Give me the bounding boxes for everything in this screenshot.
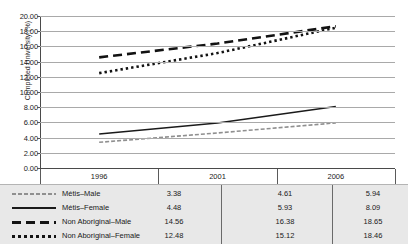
x-band-separator (40, 169, 41, 184)
gridline (40, 153, 395, 154)
y-tick-label: 20.00 (20, 12, 38, 21)
table-cell-value: 5.94 (350, 189, 396, 198)
table-cell-value: 3.38 (151, 189, 197, 198)
x-category-label: 2006 (277, 172, 395, 181)
table-row: Métis–Male3.384.615.94 (0, 187, 408, 201)
table-cell-value: 4.48 (151, 203, 197, 212)
series-line (99, 107, 336, 134)
legend-series-label: Métis–Male (62, 189, 100, 198)
y-tick-mark (37, 31, 40, 32)
series-line (99, 123, 336, 142)
gridline (40, 77, 395, 78)
y-tick-label: 18.00 (20, 27, 38, 36)
y-tick-label: 10.00 (20, 88, 38, 97)
x-category-label: 1996 (40, 172, 158, 181)
legend-line-swatch (12, 207, 56, 209)
y-tick-label: 14.00 (20, 57, 38, 66)
plot-area (40, 16, 395, 168)
gridline (40, 107, 395, 108)
y-tick-label: 0.00 (24, 164, 38, 173)
table-cell-value: 12.48 (151, 231, 197, 240)
y-tick-label: 4.00 (24, 133, 38, 142)
x-band-separator (395, 169, 396, 184)
y-tick-mark (37, 92, 40, 93)
legend-line-swatch (12, 221, 56, 224)
y-tick-mark (37, 138, 40, 139)
legend-series-label: Métis–Female (62, 203, 109, 212)
y-tick-mark (37, 46, 40, 47)
gridline (40, 122, 395, 123)
y-tick-mark (37, 62, 40, 63)
gridline (40, 62, 395, 63)
table-row: Non Aboriginal–Male14.5616.3818.65 (0, 215, 408, 229)
gridline (40, 16, 395, 17)
table-cell-value: 15.12 (262, 231, 308, 240)
line-chart: Completed University (%) 20.0018.0016.00… (0, 5, 408, 185)
legend-series-label: Non Aboriginal–Male (62, 217, 131, 226)
y-tick-mark (37, 77, 40, 78)
table-cell-value: 4.61 (262, 189, 308, 198)
table-cell-value: 5.93 (262, 203, 308, 212)
legend-series-label: Non Aboriginal–Female (62, 231, 140, 240)
series-line (99, 28, 336, 73)
y-tick-label: 16.00 (20, 42, 38, 51)
table-cell-value: 14.56 (151, 217, 197, 226)
table-row: Métis–Female4.485.938.09 (0, 201, 408, 215)
table-cell-value: 18.65 (350, 217, 396, 226)
y-tick-mark (37, 107, 40, 108)
gridline (40, 92, 395, 93)
table-cell-value: 8.09 (350, 203, 396, 212)
y-tick-label: 8.00 (24, 103, 38, 112)
legend-data-table: Métis–Male3.384.615.94Métis–Female4.485.… (0, 184, 408, 244)
table-cell-value: 18.46 (350, 231, 396, 240)
legend-line-swatch (12, 193, 56, 195)
cropped-title-text: · · · · (62, 0, 78, 2)
gridline (40, 138, 395, 139)
y-tick-label: 12.00 (20, 72, 38, 81)
y-tick-mark (37, 122, 40, 123)
legend-line-swatch (12, 235, 56, 238)
gridline (40, 46, 395, 47)
table-cell-value: 16.38 (262, 217, 308, 226)
y-tick-mark (37, 153, 40, 154)
table-row: Non Aboriginal–Female12.4815.1218.46 (0, 229, 408, 243)
y-tick-label: 6.00 (24, 118, 38, 127)
x-axis-category-band: 199620012006 (40, 169, 395, 184)
y-tick-label: 2.00 (24, 148, 38, 157)
y-axis-tick-labels: 20.0018.0016.0014.0012.0010.008.006.004.… (8, 5, 38, 175)
y-tick-mark (37, 16, 40, 17)
x-category-label: 2001 (158, 172, 276, 181)
gridline (40, 31, 395, 32)
